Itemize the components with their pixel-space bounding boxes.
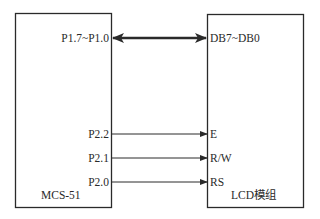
mcu-lcd-connection-diagram: MCS-51 P1.7~P1.0 P2.2 P2.1 P2.0 LCD模组 DB… xyxy=(0,0,320,219)
pin-p1-bus-label: P1.7~P1.0 xyxy=(61,32,109,44)
pin-db-bus-label: DB7~DB0 xyxy=(210,32,260,44)
lcd-block: LCD模组 DB7~DB0 E R/W RS xyxy=(208,15,304,208)
pin-p2-0-label: P2.0 xyxy=(88,176,109,188)
pin-p2-1-label: P2.1 xyxy=(88,152,109,164)
pin-rw-label: R/W xyxy=(210,152,232,164)
mcs51-label: MCS-51 xyxy=(41,189,81,201)
diagram-svg: MCS-51 P1.7~P1.0 P2.2 P2.1 P2.0 LCD模组 DB… xyxy=(0,0,320,219)
pin-p2-2-label: P2.2 xyxy=(88,128,109,140)
lcd-label: LCD模组 xyxy=(231,188,277,201)
mcs51-block: MCS-51 P1.7~P1.0 P2.2 P2.1 P2.0 xyxy=(16,14,112,208)
pin-rs-label: RS xyxy=(210,176,224,188)
pin-e-label: E xyxy=(210,128,217,140)
